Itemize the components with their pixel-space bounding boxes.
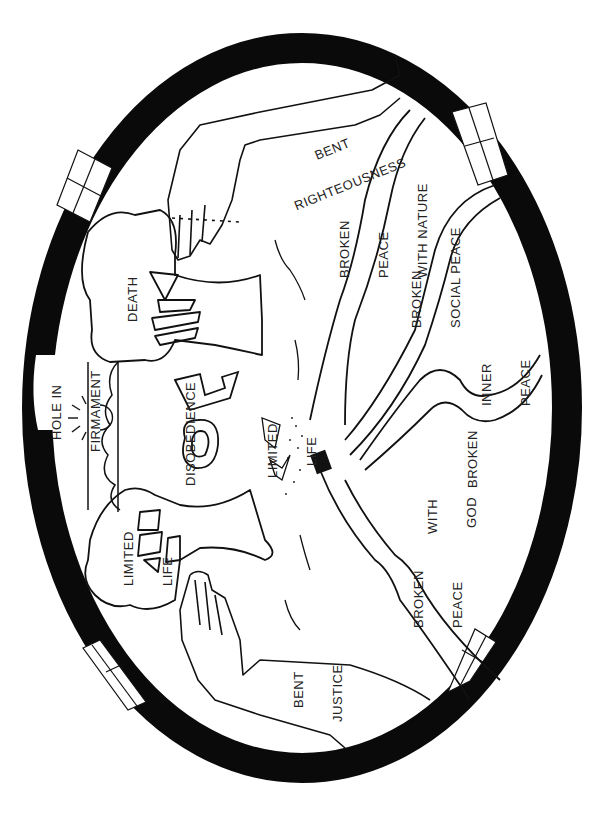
label-line: LIMITED	[266, 423, 279, 478]
label-bent-justice: BENT JUSTICE	[266, 664, 357, 722]
label-line: BROKEN	[466, 430, 479, 488]
label-line: HOLE IN	[50, 370, 63, 452]
label-line: FIRMAMENT	[89, 370, 102, 452]
label-line: LIMITED	[122, 531, 135, 586]
label-inner-peace: INNER PEACE	[454, 359, 545, 406]
label-line: SOCIAL PEACE	[449, 227, 462, 328]
label-line: WITH	[426, 497, 439, 534]
label-death: DEATH	[100, 276, 152, 322]
label-line: BROKEN	[410, 227, 423, 328]
label-line: BENT	[292, 664, 305, 722]
label-broken-social-peace: BROKEN SOCIAL PEACE	[384, 227, 475, 328]
label-line: GOD	[465, 497, 478, 534]
label-line: LIFE	[305, 423, 318, 478]
label-limited-life-center: LIMITED LIFE	[240, 423, 331, 478]
label-line: JUSTICE	[331, 664, 344, 722]
label-line: PEACE	[451, 570, 464, 628]
label-broken-inner: BROKEN	[440, 430, 492, 488]
label-line: BROKEN	[338, 183, 351, 278]
label-line: DISOBEDIENCE	[184, 382, 197, 486]
label-line: INNER	[480, 359, 493, 406]
label-with-god: WITH GOD	[400, 497, 491, 534]
label-broken-peace: BROKEN PEACE	[386, 570, 477, 628]
label-hole-in-firmament: HOLE IN FIRMAMENT	[24, 370, 115, 452]
label-disobedience: DISOBEDIENCE	[158, 382, 210, 486]
label-line: PEACE	[519, 359, 532, 406]
label-line: DEATH	[126, 276, 139, 322]
label-line: BROKEN	[412, 570, 425, 628]
label-limited-life-tree: LIMITED LIFE	[96, 531, 187, 586]
label-line: LIFE	[161, 531, 174, 586]
